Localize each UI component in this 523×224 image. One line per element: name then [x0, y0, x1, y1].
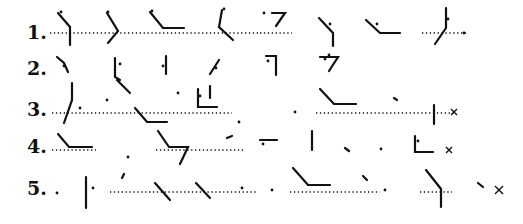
stroke-mark: [266, 56, 276, 75]
dot-mark: [177, 92, 180, 95]
stroke-mark: [210, 60, 219, 74]
stroke-mark: [57, 57, 68, 72]
dot-mark: [417, 140, 420, 143]
dot-mark: [463, 32, 466, 35]
stroke-mark: [320, 89, 356, 104]
stroke-mark: [115, 58, 120, 80]
dot-mark: [324, 58, 327, 61]
dot-mark: [329, 23, 332, 26]
dot-mark: [79, 107, 82, 110]
stroke-mark: [58, 134, 92, 147]
stroke-mark: [320, 57, 338, 71]
stroke-mark: [415, 136, 433, 152]
stroke-mark: [107, 13, 118, 43]
stroke-mark: [293, 168, 330, 185]
symbol-marks: [0, 0, 523, 224]
stroke-mark: [319, 18, 333, 46]
stroke-mark: [435, 8, 446, 44]
stroke-mark: [394, 98, 397, 100]
dot-mark: [106, 99, 109, 102]
dot-mark: [56, 192, 59, 195]
stroke-mark: [64, 83, 72, 123]
stroke-mark: [122, 174, 124, 178]
dot-mark: [223, 8, 226, 11]
cross-mark: [446, 147, 452, 153]
cross-mark: [495, 186, 503, 194]
stroke-mark: [426, 170, 441, 207]
dot-mark: [380, 148, 383, 151]
stroke-mark: [58, 13, 70, 45]
dot-mark: [162, 65, 165, 68]
dot-mark: [127, 156, 130, 159]
stroke-mark: [117, 80, 130, 93]
dot-mark: [267, 60, 270, 63]
stroke-mark: [272, 13, 285, 26]
dot-mark: [63, 65, 66, 68]
dot-mark: [376, 23, 379, 26]
dot-mark: [263, 12, 266, 15]
dot-mark: [92, 187, 95, 190]
dot-mark: [107, 11, 110, 14]
stroke-mark: [363, 176, 367, 180]
stroke-mark: [345, 148, 349, 151]
dot-mark: [238, 121, 241, 124]
dot-mark: [262, 143, 265, 146]
dot-mark: [151, 10, 154, 13]
dot-mark: [384, 189, 387, 192]
dot-mark: [119, 63, 122, 66]
dot-mark: [199, 95, 202, 98]
dot-mark: [241, 187, 244, 190]
notation-figure: 1. 2. 3. 4. 5.: [0, 0, 523, 224]
stroke-mark: [135, 108, 167, 122]
stroke-mark: [227, 136, 232, 138]
cross-mark: [451, 109, 457, 115]
dot-mark: [215, 67, 218, 70]
stroke-mark: [366, 20, 400, 33]
stroke-mark: [158, 131, 188, 164]
stroke-mark: [150, 12, 184, 28]
stroke-mark: [196, 183, 210, 198]
stroke-mark: [198, 89, 217, 107]
stroke-mark: [219, 10, 233, 40]
dot-mark: [294, 111, 297, 114]
dot-mark: [60, 11, 63, 14]
stroke-mark: [478, 183, 483, 187]
dot-mark: [328, 54, 331, 57]
dot-mark: [447, 18, 450, 21]
dot-mark: [271, 189, 274, 192]
